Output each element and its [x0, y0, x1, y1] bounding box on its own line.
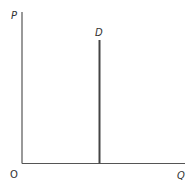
demand-curve-label: D [95, 27, 103, 38]
q-axis-label: Q [177, 170, 185, 181]
demand-diagram: P D O Q [0, 0, 194, 187]
origin-label: O [10, 169, 18, 180]
p-axis-label: P [11, 10, 18, 21]
